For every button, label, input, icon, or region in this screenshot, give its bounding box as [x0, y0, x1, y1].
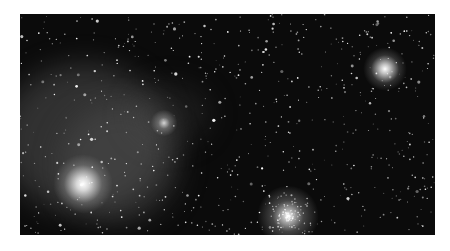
bright-star-glow — [53, 154, 113, 214]
small-cluster — [150, 110, 178, 136]
star-field-photo — [20, 14, 435, 235]
bright-star-glow — [363, 47, 407, 91]
